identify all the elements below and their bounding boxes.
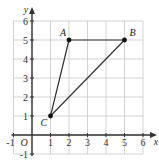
x-axis-label: x [153,136,159,147]
point-c [48,114,53,119]
x-tick-label: 6 [141,137,146,148]
point-label-a: A [59,27,67,38]
x-tick-label: -1 [6,137,14,148]
y-tick-label: -1 [20,149,28,160]
point-b [122,38,127,43]
y-tick-label: 1 [23,111,28,122]
y-tick-label: 4 [23,54,28,65]
coordinate-plane: -1123456-1123456Oxy ABC [0,0,159,164]
y-axis-arrow-icon [29,7,35,14]
x-tick-label: 3 [85,137,90,148]
x-tick-label: 4 [104,137,109,148]
x-tick-label: 5 [122,137,127,148]
point-label-c: C [41,117,48,128]
y-tick-label: 5 [23,35,28,46]
x-tick-label: 2 [67,137,72,148]
y-tick-label: 2 [23,92,28,103]
y-tick-label: 3 [23,73,28,84]
point-label-b: B [130,27,136,38]
y-axis-label: y [23,4,29,15]
y-tick-label: 6 [23,16,28,27]
x-tick-label: 1 [48,137,53,148]
tick-labels: -1123456-1123456Oxy [6,4,158,160]
origin-label: O [20,137,27,148]
point-a [67,38,72,43]
